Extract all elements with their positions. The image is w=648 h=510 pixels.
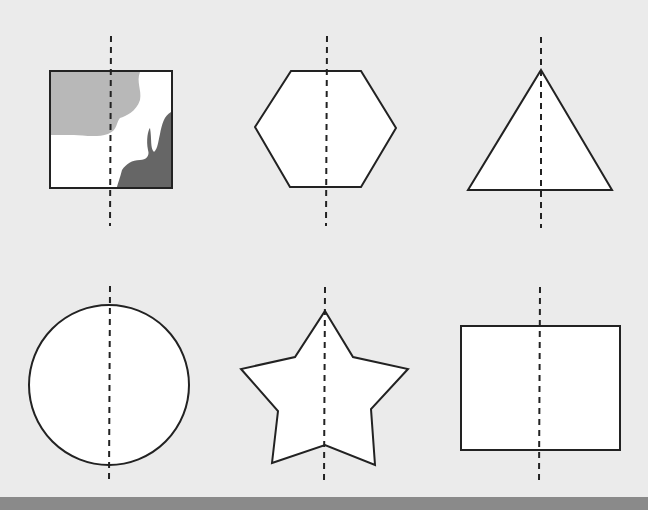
symmetry-worksheet (0, 0, 648, 510)
bottom-bar (0, 497, 648, 510)
